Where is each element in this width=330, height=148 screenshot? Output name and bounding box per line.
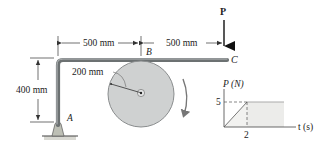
- disk: [108, 61, 174, 127]
- graph-shaded-area: [247, 102, 284, 127]
- point-c-label: C: [231, 54, 238, 65]
- rotation-arrow-icon: [183, 79, 187, 115]
- dimension-right-span: 500 mm: [166, 38, 198, 48]
- graph-y-tick: 5: [216, 97, 221, 107]
- graph-x-tick: 2: [244, 130, 249, 140]
- point-b-label: B: [146, 47, 152, 57]
- graph-x-axis-label: t (s): [298, 122, 313, 133]
- point-a-label: A: [66, 113, 73, 123]
- graph-y-axis-label-text: P (N): [222, 79, 244, 90]
- dimension-radius: 200 mm: [72, 67, 104, 77]
- dimension-height: 400 mm: [16, 85, 48, 95]
- force-time-graph: [224, 89, 296, 127]
- force-p-label: P: [220, 6, 226, 17]
- graph-y-axis-label: P (N): [222, 79, 244, 90]
- mechanics-diagram: 500 mm 500 mm 400 mm 200 mm P C B A P (N…: [0, 0, 330, 148]
- dimension-left-span: 500 mm: [83, 38, 115, 48]
